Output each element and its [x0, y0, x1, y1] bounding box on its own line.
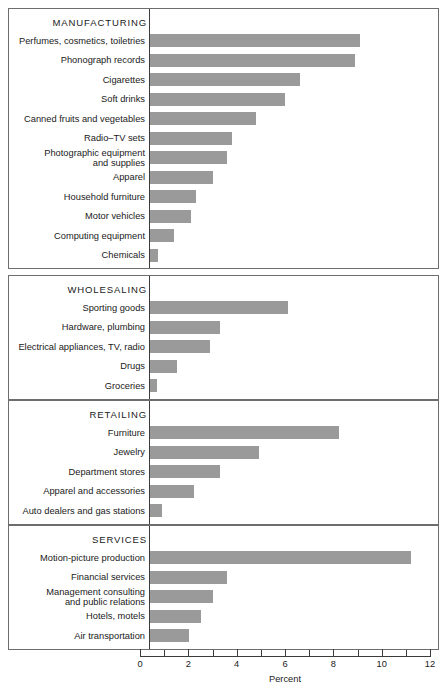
bar [150, 54, 355, 67]
axis-tick-label: 4 [234, 659, 239, 669]
bar-category-label: Apparel [9, 172, 145, 183]
bar-category-label: Chemicals [9, 250, 145, 261]
axis-tick [285, 649, 286, 657]
bar [150, 340, 210, 353]
bar-row: Department stores [9, 465, 438, 478]
panel-title: RETAILING [9, 409, 147, 420]
axis-tick-label: 12 [425, 659, 435, 669]
axis-tick [333, 649, 334, 657]
axis-tick [358, 650, 359, 657]
bar-category-label: Auto dealers and gas stations [9, 505, 145, 516]
panel-title: SERVICES [9, 534, 147, 545]
bar [150, 590, 213, 603]
bar-row: Household furniture [9, 190, 438, 203]
panel-inner: WHOLESALINGSporting goodsHardware, plumb… [9, 276, 438, 399]
bar-row: Furniture [9, 426, 438, 439]
bar-category-label: Electrical appliances, TV, radio [9, 341, 145, 352]
bar-row: Computing equipment [9, 229, 438, 242]
bar [150, 360, 177, 373]
bar-row: Drugs [9, 360, 438, 373]
bar [150, 249, 158, 262]
bar-row: Sporting goods [9, 301, 438, 314]
bar-row: Financial services [9, 571, 438, 584]
bar-category-label: Soft drinks [9, 94, 145, 105]
bar-row: Motion-picture production [9, 551, 438, 564]
axis-tick-label: 0 [137, 659, 142, 669]
bar [150, 190, 196, 203]
bar-category-label: Perfumes, cosmetics, toiletries [9, 35, 145, 46]
bar-row: Photographic equipment and supplies [9, 151, 438, 164]
bar-category-label: Motion-picture production [9, 552, 145, 563]
axis-tick-label: 2 [186, 659, 191, 669]
axis-tick [213, 650, 214, 657]
bar [150, 465, 220, 478]
bar [150, 485, 194, 498]
bar-category-label: Jewelry [9, 447, 145, 458]
bar [150, 210, 191, 223]
bar-row: Groceries [9, 379, 438, 392]
panel-title: WHOLESALING [9, 284, 147, 295]
bar [150, 426, 339, 439]
bar-row: Radio–TV sets [9, 132, 438, 145]
advertising-percent-chart: MANUFACTURINGPerfumes, cosmetics, toilet… [0, 0, 447, 695]
bar [150, 112, 256, 125]
bar [150, 571, 227, 584]
axis-tick [382, 649, 383, 657]
panel-services: SERVICESMotion-picture productionFinanci… [8, 525, 439, 650]
bar-row: Air transportation [9, 629, 438, 642]
bar [150, 610, 201, 623]
bar [150, 34, 360, 47]
axis-tick [261, 650, 262, 657]
bar [150, 629, 189, 642]
axis-tick-label: 8 [331, 659, 336, 669]
bar-category-label: Household furniture [9, 191, 145, 202]
axis-title: Percent [140, 674, 430, 684]
bar [150, 504, 162, 517]
bar [150, 151, 227, 164]
bar [150, 321, 220, 334]
bar-category-label: Management consulting and public relatio… [9, 586, 145, 607]
axis-tick [188, 649, 189, 657]
bar-row: Motor vehicles [9, 210, 438, 223]
panel-wholesaling: WHOLESALINGSporting goodsHardware, plumb… [8, 275, 439, 400]
bar-category-label: Phonograph records [9, 55, 145, 66]
bar-row: Apparel and accessories [9, 485, 438, 498]
bar [150, 301, 288, 314]
bar-row: Jewelry [9, 446, 438, 459]
bar-row: Perfumes, cosmetics, toiletries [9, 34, 438, 47]
axis-tick [309, 650, 310, 657]
bar-category-label: Department stores [9, 466, 145, 477]
bar-category-label: Furniture [9, 427, 145, 438]
bar-category-label: Apparel and accessories [9, 486, 145, 497]
panel-retailing: RETAILINGFurnitureJewelryDepartment stor… [8, 400, 439, 525]
bar [150, 446, 259, 459]
bar-category-label: Motor vehicles [9, 211, 145, 222]
axis-tick [140, 649, 141, 657]
bar [150, 171, 213, 184]
bar-category-label: Photographic equipment and supplies [9, 147, 145, 168]
axis-tick [406, 650, 407, 657]
bar-row: Phonograph records [9, 54, 438, 67]
axis-tick-label: 6 [282, 659, 287, 669]
bar-category-label: Radio–TV sets [9, 133, 145, 144]
axis-tick [237, 649, 238, 657]
bar-row: Cigarettes [9, 73, 438, 86]
bar [150, 132, 232, 145]
bar-row: Hardware, plumbing [9, 321, 438, 334]
bar [150, 379, 157, 392]
bar-category-label: Sporting goods [9, 302, 145, 313]
bar-row: Apparel [9, 171, 438, 184]
bar-category-label: Financial services [9, 572, 145, 583]
bar-row: Chemicals [9, 249, 438, 262]
bar-category-label: Hotels, motels [9, 611, 145, 622]
panel-inner: MANUFACTURINGPerfumes, cosmetics, toilet… [9, 9, 438, 268]
bar-category-label: Computing equipment [9, 230, 145, 241]
bar-row: Auto dealers and gas stations [9, 504, 438, 517]
axis-tick [164, 650, 165, 657]
bar-category-label: Cigarettes [9, 74, 145, 85]
bar [150, 93, 285, 106]
x-axis: 024681012 Percent [8, 648, 439, 692]
bar-category-label: Hardware, plumbing [9, 322, 145, 333]
panel-inner: RETAILINGFurnitureJewelryDepartment stor… [9, 401, 438, 524]
bar-row: Management consulting and public relatio… [9, 590, 438, 603]
